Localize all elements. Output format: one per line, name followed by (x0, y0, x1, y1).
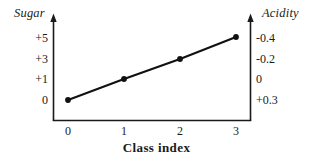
plot-area (0, 0, 313, 163)
data-line-sugar (68, 37, 236, 100)
left-axis-spine (50, 14, 56, 121)
right-axis-arrow-icon (247, 14, 253, 23)
left-axis-arrow-icon (50, 14, 56, 23)
x-axis-title: Class index (0, 140, 313, 156)
data-point-marker (233, 34, 239, 40)
right-axis-spine (247, 14, 253, 121)
chart-figure: Sugar Acidity +5 +3 +1 0 -0.4 -0.2 0 +0.… (0, 0, 313, 163)
data-point-marker (177, 56, 183, 62)
data-point-marker (65, 97, 71, 103)
data-point-marker (121, 76, 127, 82)
